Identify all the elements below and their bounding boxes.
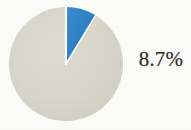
pie-chart-area — [0, 0, 131, 130]
pie-percentage-label: 8.7% — [130, 47, 191, 72]
pie-chart-figure: 8.7% — [0, 0, 191, 130]
pie-chart-svg — [0, 0, 131, 130]
pie-chart-label-area: 8.7% — [131, 0, 191, 130]
